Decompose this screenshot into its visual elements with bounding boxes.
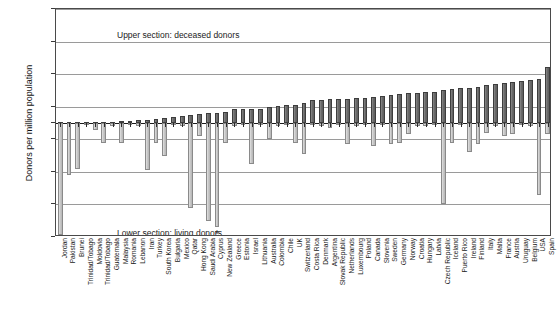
- x-category-label: Canada: [375, 238, 382, 261]
- x-category-label: Lebanon: [140, 238, 147, 264]
- x-category-label: Finland: [479, 238, 486, 260]
- x-tick-mark: [382, 123, 383, 127]
- x-tick-mark: [435, 123, 436, 127]
- x-tick-mark: [530, 123, 531, 127]
- bar-group: [145, 9, 150, 235]
- x-category-label: Sweden: [392, 238, 399, 262]
- x-category-label: Puerto Rico: [462, 238, 469, 272]
- asterisk-annotation: *: [215, 230, 219, 236]
- x-category-label: Poland: [366, 238, 373, 259]
- bar-group: [302, 9, 307, 235]
- bar-living-donors: [67, 123, 72, 175]
- x-axis-category-labels: JordanPakistanBruneiTrinidad/TobagoMoldo…: [55, 238, 551, 310]
- bar-living-donors: [206, 123, 211, 221]
- x-tick-mark: [365, 123, 366, 127]
- x-category-label: Trinidad/Tobago: [88, 238, 95, 285]
- bar-deceased-donors: [450, 89, 455, 123]
- bar-group: [110, 9, 115, 235]
- bar-deceased-donors: [493, 84, 498, 123]
- x-category-label: Latvia: [436, 238, 443, 256]
- x-category-label: Greece: [236, 238, 243, 260]
- x-category-label: Malta: [497, 238, 504, 254]
- bar-group: [354, 9, 359, 235]
- bar-deceased-donors: [467, 88, 472, 123]
- bar-group: [415, 9, 420, 235]
- x-category-label: Romania: [131, 238, 138, 264]
- x-category-label: Czech Republic: [445, 238, 452, 284]
- x-category-label: Norway: [410, 238, 417, 260]
- x-category-label: Iceland: [453, 238, 460, 259]
- x-category-label: Pakistan: [70, 238, 77, 263]
- x-tick-mark: [60, 123, 61, 127]
- x-tick-mark: [243, 123, 244, 127]
- bar-group: [101, 9, 106, 235]
- x-tick-mark: [130, 123, 131, 127]
- bar-deceased-donors: [432, 92, 437, 123]
- bar-group: [258, 9, 263, 235]
- bar-deceased-donors: [336, 99, 341, 123]
- bar-group: [467, 9, 472, 235]
- x-tick-mark: [113, 123, 114, 127]
- bar-deceased-donors: [397, 94, 402, 123]
- x-tick-mark: [461, 123, 462, 127]
- x-tick-mark: [548, 123, 549, 127]
- x-tick-mark: [443, 123, 444, 127]
- bar-group: [528, 9, 533, 235]
- x-category-label: Austria: [514, 238, 521, 259]
- x-tick-mark: [348, 123, 349, 127]
- bar-group: [406, 9, 411, 235]
- x-tick-mark: [374, 123, 375, 127]
- bar-group: [502, 9, 507, 235]
- bar-group: [223, 9, 228, 235]
- bar-deceased-donors: [380, 96, 385, 123]
- bar-living-donors: [215, 123, 220, 227]
- x-tick-mark: [339, 123, 340, 127]
- x-category-label: Qatar: [192, 238, 199, 255]
- x-tick-mark: [513, 123, 514, 127]
- bar-series-container: [56, 9, 550, 235]
- x-tick-mark: [504, 123, 505, 127]
- x-tick-mark: [304, 123, 305, 127]
- x-tick-mark: [156, 123, 157, 127]
- x-tick-mark: [139, 123, 140, 127]
- bar-group: [276, 9, 281, 235]
- bar-deceased-donors: [423, 92, 428, 123]
- x-tick-mark: [104, 123, 105, 127]
- x-tick-mark: [147, 123, 148, 127]
- x-tick-mark: [321, 123, 322, 127]
- bar-group: [423, 9, 428, 235]
- bar-group: [319, 9, 324, 235]
- bar-deceased-donors: [215, 113, 220, 123]
- x-tick-mark: [295, 123, 296, 127]
- bar-deceased-donors: [476, 87, 481, 123]
- bar-living-donors: [162, 123, 167, 156]
- x-category-label: Iran: [149, 238, 156, 249]
- x-category-label: Israel: [253, 238, 260, 254]
- x-category-label: Australia: [271, 238, 278, 264]
- bar-group: [310, 9, 315, 235]
- x-tick-mark: [539, 123, 540, 127]
- bar-group: [284, 9, 289, 235]
- bar-living-donors: [145, 123, 150, 170]
- x-category-label: Lithuania: [262, 238, 269, 265]
- bar-group: [450, 9, 455, 235]
- x-tick-mark: [391, 123, 392, 127]
- x-category-label: Malaysia: [123, 238, 130, 264]
- x-category-label: Bulgaria: [175, 238, 182, 262]
- bar-deceased-donors: [528, 80, 533, 123]
- x-category-label: Hungary: [427, 238, 434, 263]
- bar-deceased-donors: [249, 109, 254, 123]
- bar-deceased-donors: [510, 82, 515, 123]
- bar-group: [363, 9, 368, 235]
- chart-figure: Donors per million population 3525155051…: [0, 0, 559, 319]
- x-tick-mark: [269, 123, 270, 127]
- bar-group: [75, 9, 80, 235]
- x-category-label: Turkey: [157, 238, 164, 258]
- x-category-label: Estonia: [244, 238, 251, 260]
- x-category-label: Uruguay: [523, 238, 530, 263]
- bar-deceased-donors: [319, 100, 324, 123]
- bar-group: [241, 9, 246, 235]
- plot-area: Upper section: deceased donors Lower sec…: [55, 8, 551, 236]
- bar-group: [67, 9, 72, 235]
- bar-group: [293, 9, 298, 235]
